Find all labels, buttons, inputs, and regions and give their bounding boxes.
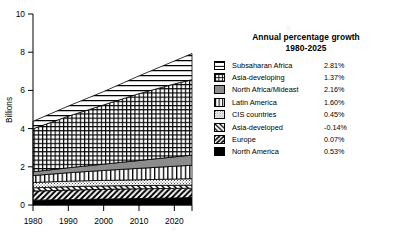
legend-item-value: 2.81% xyxy=(324,61,344,70)
x-tick-label: 2020 xyxy=(165,216,184,226)
population-stacked-area-chart: 0246810 19801990200020102020 Billions An… xyxy=(0,0,395,238)
legend-swatch-cross-grid-icon xyxy=(214,73,225,82)
legend-item[interactable]: Europe0.07% xyxy=(214,133,392,145)
legend-item-value: 1.37% xyxy=(324,73,344,82)
legend-item-value: -0.14% xyxy=(324,123,347,132)
y-axis-title: Billions xyxy=(5,97,14,123)
legend-items: Subsaharan Africa2.81%Asia-developing1.3… xyxy=(214,59,392,158)
legend-swatch-vertical-lines-icon xyxy=(214,98,225,107)
legend-swatch-diagonal-back-icon xyxy=(214,123,225,132)
y-tick-label: 10 xyxy=(16,9,26,19)
legend-item-value: 0.07% xyxy=(324,135,344,144)
legend-item[interactable]: Subsaharan Africa2.81% xyxy=(214,59,392,71)
legend-swatch-solid-black-icon xyxy=(214,147,225,156)
legend-title-line-1: Annual percentage growth xyxy=(220,32,392,43)
legend-item-value: 2.16% xyxy=(324,85,344,94)
legend-item-label: Subsaharan Africa xyxy=(232,61,324,70)
legend-item-label: CIS countries xyxy=(232,110,324,119)
x-axis-ticks: 19801990200020102020 xyxy=(24,205,192,226)
x-tick-label: 2010 xyxy=(130,216,149,226)
y-tick-label: 4 xyxy=(20,124,25,134)
legend-item[interactable]: CIS countries0.45% xyxy=(214,109,392,121)
chart-legend: Annual percentage growth 1980-2025 Subsa… xyxy=(214,32,392,158)
x-tick-label: 2000 xyxy=(94,216,113,226)
legend-item[interactable]: North Africa/Mideast2.16% xyxy=(214,84,392,96)
x-tick-label: 1990 xyxy=(59,216,78,226)
legend-swatch-diagonal-forward-icon xyxy=(214,135,225,144)
legend-item-label: North Africa/Mideast xyxy=(232,85,324,94)
legend-item-label: Latin America xyxy=(232,98,324,107)
legend-item-value: 1.60% xyxy=(324,98,344,107)
legend-item[interactable]: Asia-developing1.37% xyxy=(214,71,392,83)
legend-swatch-solid-gray-icon xyxy=(214,85,225,94)
legend-item[interactable]: North America0.53% xyxy=(214,146,392,158)
y-tick-label: 8 xyxy=(20,47,25,57)
legend-swatch-horizontal-lines-icon xyxy=(214,61,225,70)
y-tick-label: 6 xyxy=(20,85,25,95)
legend-item-label: Asia-developed xyxy=(232,123,324,132)
x-tick-label: 1980 xyxy=(24,216,43,226)
legend-title-line-2: 1980-2025 xyxy=(220,43,392,54)
legend-item-label: North America xyxy=(232,147,324,156)
y-axis-ticks: 0246810 xyxy=(16,9,33,210)
legend-item-label: Europe xyxy=(232,135,324,144)
legend-title: Annual percentage growth 1980-2025 xyxy=(220,32,392,53)
legend-swatch-dotted-icon xyxy=(214,110,225,119)
legend-item[interactable]: Asia-developed-0.14% xyxy=(214,121,392,133)
legend-item-value: 0.45% xyxy=(324,110,344,119)
legend-item-value: 0.53% xyxy=(324,147,344,156)
y-tick-label: 0 xyxy=(20,200,25,210)
legend-item-label: Asia-developing xyxy=(232,73,324,82)
legend-item[interactable]: Latin America1.60% xyxy=(214,96,392,108)
y-tick-label: 2 xyxy=(20,162,25,172)
